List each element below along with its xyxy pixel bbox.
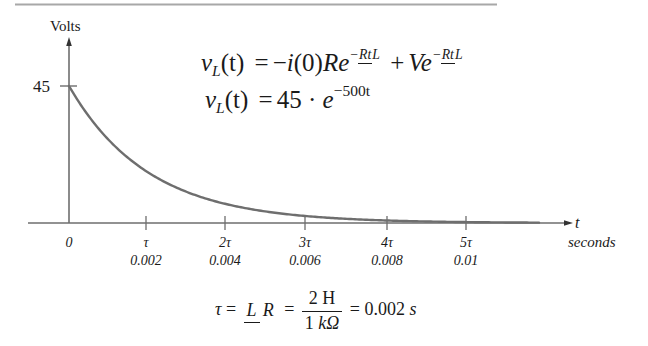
eq1-e2: e: [421, 49, 432, 76]
x-tick-label-5tau: 5τ: [460, 235, 473, 250]
tau-eq1: =: [226, 299, 236, 319]
eq1-arg: (t): [221, 49, 245, 76]
tau-result: = 0.002: [350, 299, 405, 319]
x-tick-label-0: 0: [66, 235, 73, 250]
x-tick-label-2tau: 2τ: [219, 235, 232, 250]
time-constant-equation: τ = LR = 2 H1 kΩ = 0.002 s: [215, 289, 416, 334]
x-axis-arrow-icon: [564, 220, 573, 226]
equation-general: vL(t) =−i(0)Re−RtL +Ve−RtL: [201, 48, 463, 77]
tau-symbol: τ: [215, 299, 221, 319]
eq1-exp1-frac: RtL: [358, 48, 380, 62]
eq1-plus: +: [390, 49, 404, 76]
eq2-sub: L: [216, 99, 225, 116]
eq1-i-arg: (0): [294, 49, 323, 76]
tau-unit: s: [409, 299, 416, 319]
eq1-sub: L: [212, 62, 221, 79]
eq1-V: V: [408, 49, 421, 76]
eq2-exponent: −500t: [334, 82, 370, 99]
x-tick-value-4tau: 0.008: [371, 253, 403, 268]
eq1-equals: =: [255, 49, 269, 76]
eq1-e1: e: [338, 49, 349, 76]
x-tick-label-4tau: 4τ: [381, 235, 394, 250]
x-axis-unit-label: seconds: [568, 234, 616, 250]
x-tick-label-tau: τ: [143, 235, 149, 250]
eq2-arg: (t): [225, 86, 249, 113]
equation-specific: vL(t) =45 · e−500t: [205, 86, 370, 114]
eq2-coef: 45 ·: [277, 86, 317, 113]
eq2-e: e: [323, 86, 334, 113]
y-tick-label: 45: [33, 77, 50, 96]
tau-frac-L-R: LR: [244, 301, 277, 321]
tau-eq2: =: [284, 299, 294, 319]
eq2-v: v: [205, 86, 216, 113]
x-axis-var-label: t: [575, 214, 580, 231]
y-axis-label: Volts: [50, 18, 81, 34]
eq1-exp2: −: [433, 48, 441, 62]
x-tick-value-2tau: 0.004: [209, 253, 241, 268]
eq2-equals: =: [259, 86, 273, 113]
tau-frac-values: 2 H1 kΩ: [302, 289, 343, 334]
eq1-exp2-frac: RtL: [441, 48, 463, 62]
x-tick-value-3tau: 0.006: [289, 253, 321, 268]
eq1-exp1: −: [350, 48, 358, 62]
x-tick-value-5tau: 0.01: [454, 253, 479, 268]
y-axis-arrow-icon: [66, 37, 72, 46]
eq1-v: v: [201, 49, 212, 76]
eq1-minus: −: [273, 49, 287, 76]
x-tick-value-tau: 0.002: [130, 253, 162, 268]
eq1-R: R: [323, 49, 338, 76]
eq1-i: i: [287, 49, 294, 76]
x-tick-label-3tau: 3τ: [298, 235, 312, 250]
